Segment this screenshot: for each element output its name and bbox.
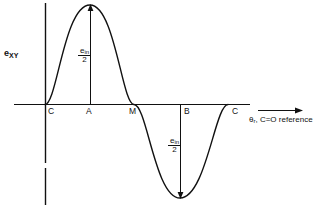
y-axis-label: eXY <box>4 48 18 59</box>
y-axis-label-subscript: XY <box>9 52 18 59</box>
x-axis-caption-text: , C=O reference <box>255 115 312 124</box>
upper-amplitude-denominator: 2 <box>78 56 91 64</box>
lower-amplitude-fraction: ein 2 <box>168 137 181 155</box>
lower-amplitude-denominator: 2 <box>168 146 181 154</box>
tick-label-b: B <box>184 106 190 116</box>
upper-amplitude-fraction: ein 2 <box>78 47 91 65</box>
figure-canvas <box>0 0 329 207</box>
sine-curve <box>45 5 228 198</box>
tick-label-a: A <box>86 106 92 116</box>
tick-label-c-origin: C <box>48 106 54 116</box>
x-axis-caption: θr, C=O reference <box>249 115 313 124</box>
x-axis-direction-arrowhead <box>295 107 303 113</box>
tick-label-m: M <box>129 106 136 116</box>
tick-label-c-end: C <box>232 106 238 116</box>
sine-waveform-figure: eXY C A M B C ein 2 ein 2 θr, C=O refere… <box>0 0 329 207</box>
